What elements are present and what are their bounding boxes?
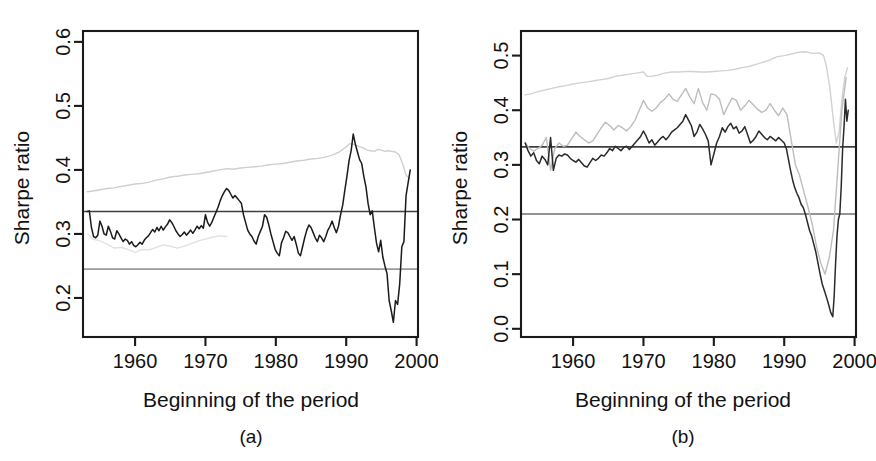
panel-b-yticklabel: 0.5 — [490, 42, 512, 70]
panel-b-plot: 196019701980199020000.00.10.20.30.40.5 B… — [438, 0, 876, 461]
panel-b-yticklabel: 0.2 — [490, 206, 512, 234]
panel-b-xticklabel: 1990 — [762, 350, 807, 372]
panel-a-caption: (a) — [239, 426, 262, 447]
panel-a-series-lower-faint-envelope — [88, 234, 227, 253]
panel-b-series-area — [521, 52, 856, 317]
panel-b-yticklabel: 0.0 — [490, 315, 512, 343]
panel-b-yticklabel: 0.1 — [490, 260, 512, 288]
figure-container: 196019701980199020000.20.30.40.50.6 Begi… — [0, 0, 876, 461]
panel-a-yticklabel: 0.3 — [52, 220, 74, 248]
panel-b-series-sharpe-ratio-main — [525, 99, 848, 316]
panel-a-xticklabel: 1980 — [254, 350, 299, 372]
panel-a-yticklabel: 0.6 — [52, 28, 74, 56]
panel-b-chart-group: 196019701980199020000.00.10.20.30.40.5 — [490, 31, 876, 372]
panel-a-xticklabel: 1990 — [324, 350, 369, 372]
panel-a-plot: 196019701980199020000.20.30.40.50.6 Begi… — [0, 0, 438, 461]
panel-b-yticklabel: 0.4 — [490, 96, 512, 124]
panel-b: 196019701980199020000.00.10.20.30.40.5 B… — [438, 0, 876, 461]
panel-a-xticklabel: 1960 — [113, 350, 158, 372]
panel-a: 196019701980199020000.20.30.40.50.6 Begi… — [0, 0, 438, 461]
panel-b-caption: (b) — [671, 426, 694, 447]
panel-b-plot-frame — [521, 31, 856, 337]
panel-a-series-upper-envelope — [87, 144, 409, 192]
panel-a-xticklabel: 1970 — [183, 350, 228, 372]
panel-a-ylabel: Sharpe ratio — [10, 131, 33, 245]
panel-a-series-area — [83, 134, 418, 322]
panel-b-xticklabel: 1960 — [551, 350, 596, 372]
panel-a-chart-group: 196019701980199020000.20.30.40.50.6 — [52, 28, 438, 372]
panel-a-series-sharpe-ratio-main — [87, 134, 410, 322]
panel-a-yticklabel: 0.5 — [52, 92, 74, 120]
panel-b-ylabel: Sharpe ratio — [448, 131, 471, 245]
panel-a-yticklabel: 0.2 — [52, 284, 74, 312]
panel-b-series-upper-envelope — [525, 52, 847, 143]
panel-b-yticklabel: 0.3 — [490, 151, 512, 179]
panel-a-yticklabel: 0.4 — [52, 156, 74, 184]
panel-a-xlabel: Beginning of the period — [143, 388, 359, 411]
panel-b-xticklabel: 1980 — [692, 350, 737, 372]
panel-b-series-mid-envelope — [525, 77, 846, 274]
panel-a-xticklabel: 2000 — [394, 350, 438, 372]
panel-b-xticklabel: 2000 — [832, 350, 876, 372]
panel-b-xticklabel: 1970 — [621, 350, 666, 372]
panel-b-xlabel: Beginning of the period — [575, 388, 791, 411]
